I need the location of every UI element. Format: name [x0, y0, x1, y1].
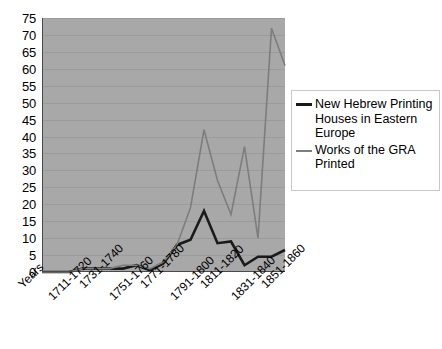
legend-item-label: New Hebrew Printing Houses in Eastern Eu…: [315, 97, 435, 141]
y-axis-tick-label: 35: [2, 147, 36, 160]
gray-line-swatch-icon: [296, 150, 312, 152]
y-axis-tick-label: 10: [2, 232, 36, 245]
y-axis-tick-label: 50: [2, 96, 36, 109]
y-axis-tick-label: 40: [2, 130, 36, 143]
y-axis-tick-label: 70: [2, 28, 36, 41]
chart-title: [0, 0, 442, 10]
y-axis-line: [42, 18, 43, 272]
y-axis-tick-label: 30: [2, 164, 36, 177]
y-axis-tick-label: 55: [2, 79, 36, 92]
black-line-swatch-icon: [296, 103, 312, 106]
y-axis-tick-label: 45: [2, 113, 36, 126]
x-axis: Years1711-17201731-17401751-17601771-178…: [0, 272, 300, 349]
y-axis-tick-label: 15: [2, 215, 36, 228]
series-line: [42, 28, 285, 272]
line-chart: 051015202530354045505560657075 Years1711…: [0, 0, 442, 349]
y-axis-tick-label: 65: [2, 45, 36, 58]
y-axis-tick-label: 20: [2, 198, 36, 211]
y-axis-tick-label: 5: [2, 249, 36, 262]
plot-area: [42, 18, 285, 272]
chart-legend: New Hebrew Printing Houses in Eastern Eu…: [291, 90, 440, 191]
y-axis-tick-label: 25: [2, 181, 36, 194]
y-axis-tick-label: 60: [2, 62, 36, 75]
legend-item-label: Works of the GRA Printed: [315, 143, 435, 172]
legend-item: Works of the GRA Printed: [296, 143, 435, 172]
series-layer: [42, 18, 285, 272]
y-axis-tick-label: 75: [2, 12, 36, 25]
legend-item: New Hebrew Printing Houses in Eastern Eu…: [296, 97, 435, 141]
y-axis: 051015202530354045505560657075: [0, 12, 36, 278]
